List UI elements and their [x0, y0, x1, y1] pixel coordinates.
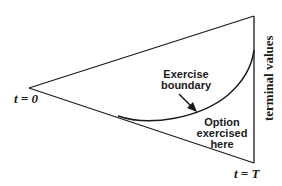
option-exercised-label: Option exercised here — [196, 117, 248, 150]
upper-edge — [29, 16, 254, 88]
terminal-values-label: terminal values — [261, 35, 277, 121]
start-time-label: t = 0 — [14, 91, 38, 107]
exercise-boundary-label: Exercise boundary — [156, 69, 216, 91]
exercise-boundary-line2: boundary — [156, 80, 216, 91]
option-exercised-line3: here — [196, 139, 248, 150]
end-time-label: t = T — [234, 166, 259, 182]
tree-diagram — [0, 0, 282, 186]
